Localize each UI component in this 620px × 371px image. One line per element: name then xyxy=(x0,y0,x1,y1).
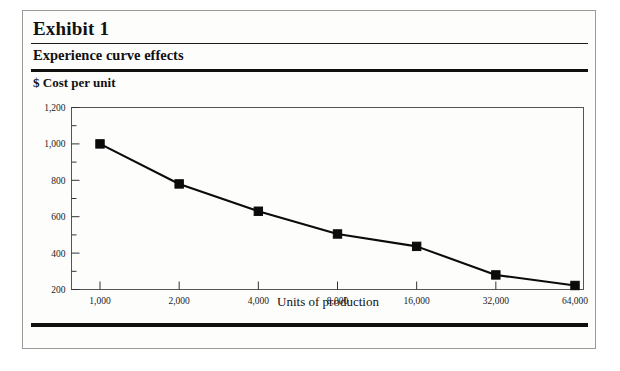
y-axis-minor-ticks xyxy=(72,126,77,272)
y-tick-label: 400 xyxy=(51,249,66,259)
data-point-marker xyxy=(254,207,262,215)
experience-curve-chart: 2004006008001,0001,200 1,0002,0004,0008,… xyxy=(23,89,597,314)
x-tick-label: 32,000 xyxy=(483,296,509,306)
x-axis-title: Units of production xyxy=(277,294,379,309)
chart-svg: 2004006008001,0001,200 1,0002,0004,0008,… xyxy=(23,89,597,314)
divider-bottom xyxy=(31,323,588,327)
x-tick-label: 1,000 xyxy=(89,296,111,306)
data-point-marker xyxy=(412,242,420,250)
data-point-marker xyxy=(492,271,500,279)
exhibit-subtitle: Experience curve effects xyxy=(33,47,184,64)
data-point-marker xyxy=(96,140,104,148)
y-tick-label: 800 xyxy=(51,176,66,186)
series-markers xyxy=(96,140,579,290)
y-axis-tick-labels: 2004006008001,0001,200 xyxy=(44,103,66,295)
series-line-cost-per-unit xyxy=(100,144,575,286)
divider-under-title xyxy=(31,43,588,44)
x-tick-label: 64,000 xyxy=(562,296,588,306)
x-tick-label: 16,000 xyxy=(404,296,430,306)
y-tick-label: 200 xyxy=(51,285,66,295)
x-axis-ticks xyxy=(100,282,575,290)
y-tick-label: 600 xyxy=(51,212,66,222)
x-tick-label: 4,000 xyxy=(248,296,270,306)
y-tick-label: 1,200 xyxy=(44,103,66,113)
plot-frame xyxy=(72,108,584,290)
exhibit-frame: Exhibit 1 Experience curve effects $ Cos… xyxy=(22,10,596,349)
divider-under-subtitle xyxy=(31,69,588,72)
data-point-marker xyxy=(333,230,341,238)
x-tick-label: 2,000 xyxy=(168,296,190,306)
page-title: Exhibit 1 xyxy=(33,18,109,40)
y-tick-label: 1,000 xyxy=(44,139,66,149)
data-point-marker xyxy=(175,180,183,188)
data-point-marker xyxy=(571,281,579,289)
